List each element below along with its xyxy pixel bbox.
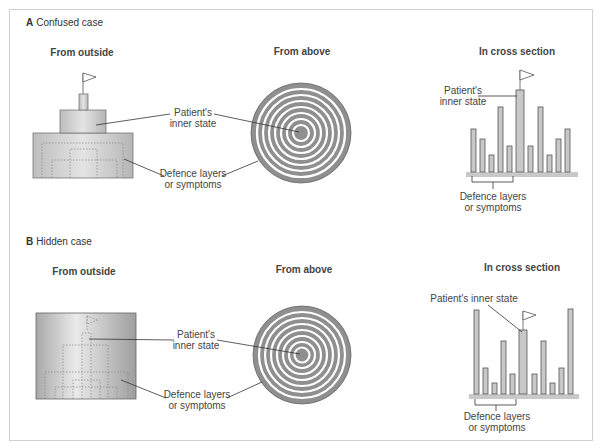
diagram-graphics [0,0,600,448]
panel-a-tower [33,73,133,178]
panel-b-box [36,313,136,399]
panel-a-target [251,83,351,183]
panel-a-cross-section [466,70,578,189]
panel-b-target [253,306,351,404]
panel-b-cross-section [469,305,579,411]
